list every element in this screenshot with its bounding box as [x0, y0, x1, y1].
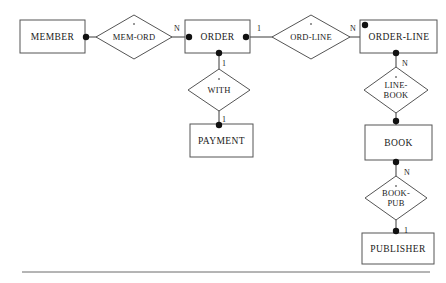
cardinality-with-payment: 1	[222, 115, 226, 124]
relationship-book-pub[interactable]: BOOK- PUB	[365, 176, 427, 220]
cardinality-book-pub-publisher: 1	[404, 226, 408, 235]
relationship-mem-ord[interactable]: MEM-ORD	[96, 15, 172, 59]
entity-layer: MEMBER ORDER ORDER-LINE PAYMENT BOOK PUB…	[20, 20, 437, 264]
cardinality-order-with: 1	[222, 59, 226, 68]
entity-order-line[interactable]: ORDER-LINE	[360, 20, 437, 53]
entity-member[interactable]: MEMBER	[20, 20, 85, 53]
relationship-line-book-label-1: LINE-	[384, 80, 407, 90]
relationship-book-pub-label-2: PUB	[387, 198, 404, 208]
cardinality-order-ord-line: 1	[257, 24, 261, 33]
cardinality-ord-line-order-line: N	[350, 24, 356, 33]
dot-order-line-left	[362, 22, 368, 28]
cardinality-mem-ord-order: N	[174, 24, 180, 33]
relationship-ord-line-label: ORD-LINE	[290, 32, 332, 42]
relationship-book-pub-label-1: BOOK-	[382, 188, 410, 198]
relationship-book-pub-mark	[395, 185, 397, 187]
relationship-line-book[interactable]: LINE- BOOK	[364, 67, 428, 113]
er-diagram-canvas: MEMBER ORDER ORDER-LINE PAYMENT BOOK PUB…	[0, 0, 446, 283]
entity-order[interactable]: ORDER	[185, 20, 250, 53]
relationship-with-mark	[218, 78, 220, 80]
relationship-ord-line-mark	[310, 23, 312, 25]
relationship-with[interactable]: WITH	[188, 69, 250, 111]
dot-member-right	[83, 34, 89, 40]
entity-payment-label: PAYMENT	[198, 136, 245, 146]
dot-order-left	[186, 34, 192, 40]
cardinality-book-book-pub: N	[404, 168, 410, 177]
entity-payment[interactable]: PAYMENT	[190, 124, 253, 157]
cardinality-order-line-line-book: N	[402, 59, 408, 68]
relationship-mem-ord-label: MEM-ORD	[113, 32, 156, 42]
dot-order-right	[243, 34, 249, 40]
relationship-mem-ord-mark	[133, 23, 135, 25]
relationship-line-book-label-2: BOOK	[384, 90, 410, 100]
dot-book-top	[393, 118, 399, 124]
entity-book[interactable]: BOOK	[365, 125, 432, 160]
dot-book-bottom	[393, 159, 399, 165]
relationship-line-book-mark	[395, 76, 397, 78]
entity-publisher-label: PUBLISHER	[370, 244, 426, 254]
dot-publisher-top	[393, 228, 399, 234]
entity-publisher[interactable]: PUBLISHER	[362, 233, 434, 264]
relationship-ord-line[interactable]: ORD-LINE	[272, 15, 350, 59]
entity-order-label: ORDER	[200, 32, 234, 42]
entity-book-label: BOOK	[384, 138, 413, 148]
entity-member-label: MEMBER	[31, 32, 75, 42]
entity-order-line-label: ORDER-LINE	[369, 32, 430, 42]
dot-order-line-bottom	[393, 50, 399, 56]
dot-order-bottom	[216, 50, 222, 56]
relationship-with-label: WITH	[208, 85, 231, 95]
